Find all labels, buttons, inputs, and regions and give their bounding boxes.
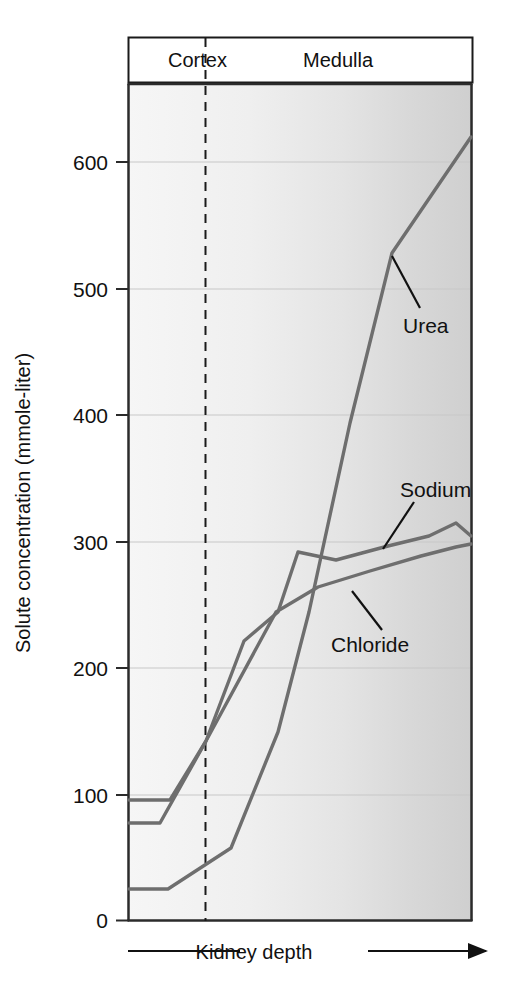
series-label-urea: Urea (403, 314, 449, 337)
ytick-label-300: 300 (73, 531, 108, 554)
ytick-label-0: 0 (96, 909, 108, 932)
y-axis-ticks (116, 162, 129, 921)
ytick-label-600: 600 (73, 151, 108, 174)
series-label-sodium: Sodium (400, 478, 471, 501)
x-axis-title: Kidney depth (196, 941, 313, 963)
ytick-label-100: 100 (73, 784, 108, 807)
y-axis-title: Solute concentration (mmole-liter) (12, 353, 34, 653)
kidney-solute-concentration-figure: Cortex Medulla (0, 0, 508, 985)
x-axis-title-group: Kidney depth (128, 941, 486, 963)
ytick-label-400: 400 (73, 404, 108, 427)
region-label-medulla: Medulla (303, 49, 374, 71)
ytick-label-500: 500 (73, 278, 108, 301)
y-axis-tick-labels: 600 500 400 300 200 100 0 (73, 151, 108, 932)
chart-svg: Cortex Medulla (0, 0, 508, 985)
ytick-label-200: 200 (73, 657, 108, 680)
region-header: Cortex Medulla (129, 38, 473, 83)
region-label-cortex: Cortex (168, 49, 227, 71)
series-label-chloride: Chloride (331, 633, 409, 656)
